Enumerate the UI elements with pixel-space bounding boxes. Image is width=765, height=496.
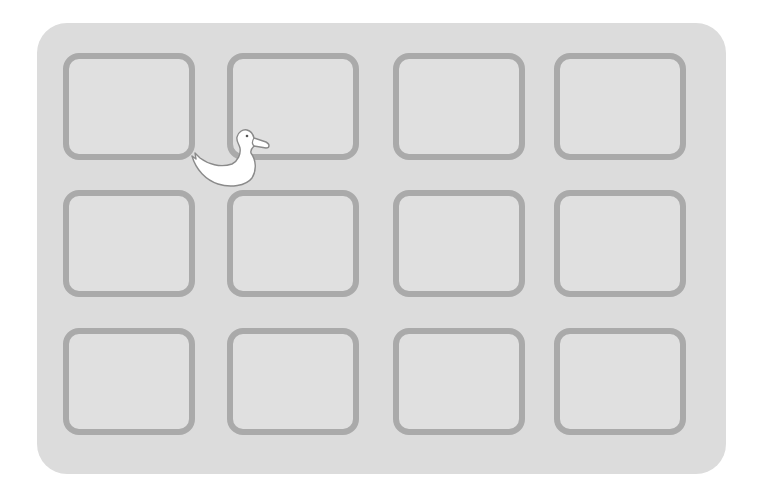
- tile-r1-c4[interactable]: [554, 53, 686, 160]
- tile-r2-c2[interactable]: [227, 190, 359, 297]
- game-board: [37, 23, 726, 474]
- tile-r3-c1[interactable]: [63, 328, 195, 435]
- tile-r3-c4[interactable]: [554, 328, 686, 435]
- tile-r1-c1[interactable]: [63, 53, 195, 160]
- tile-r1-c3[interactable]: [393, 53, 525, 160]
- tile-r2-c1[interactable]: [63, 190, 195, 297]
- tile-r3-c3[interactable]: [393, 328, 525, 435]
- game-stage: [0, 0, 765, 496]
- tile-r2-c4[interactable]: [554, 190, 686, 297]
- tile-r3-c2[interactable]: [227, 328, 359, 435]
- duck-icon[interactable]: [186, 126, 272, 190]
- tile-r2-c3[interactable]: [393, 190, 525, 297]
